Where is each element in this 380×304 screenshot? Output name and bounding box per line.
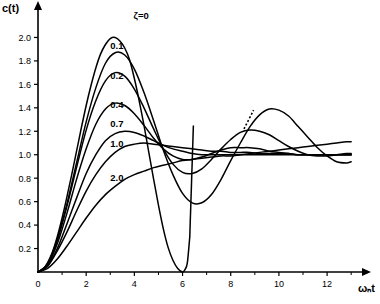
step-response-chart: 0246810120.20.40.60.81.01.21.41.61.82.0c… bbox=[0, 0, 380, 304]
annotation-02: 0.2 bbox=[110, 70, 123, 81]
y-tick-label: 1.2 bbox=[18, 127, 31, 137]
curve-zeta-0-tail bbox=[190, 125, 194, 236]
x-tick-label: 4 bbox=[132, 279, 137, 289]
x-tick-label: 0 bbox=[35, 279, 40, 289]
y-tick-label: 0.2 bbox=[18, 244, 31, 254]
x-tick-label: 6 bbox=[180, 279, 185, 289]
y-axis-label: c(t) bbox=[2, 2, 19, 14]
x-tick-label: 8 bbox=[228, 279, 233, 289]
y-tick-label: 2.0 bbox=[18, 33, 31, 43]
x-tick-label: 12 bbox=[322, 279, 332, 289]
pointer-dotted-line bbox=[244, 110, 254, 129]
curve-zeta-1 bbox=[38, 143, 351, 272]
annotation-07: 0.7 bbox=[110, 118, 123, 129]
y-axis-arrow bbox=[34, 1, 42, 10]
y-tick-label: 1.0 bbox=[18, 150, 31, 160]
chart-container: 0246810120.20.40.60.81.01.21.41.61.82.0c… bbox=[0, 0, 380, 304]
annotation-01: 0.1 bbox=[110, 40, 124, 51]
y-tick-label: 0.4 bbox=[18, 220, 31, 230]
x-tick-label: 2 bbox=[84, 279, 89, 289]
annotation-0: ζ=0 bbox=[134, 10, 149, 21]
y-tick-label: 0.6 bbox=[18, 197, 31, 207]
y-tick-label: 0.8 bbox=[18, 174, 31, 184]
curve-zeta-0.2 bbox=[38, 72, 351, 272]
annotation-10: 1.0 bbox=[110, 138, 123, 149]
annotation-20: 2.0 bbox=[110, 172, 123, 183]
y-tick-label: 1.8 bbox=[18, 56, 31, 66]
y-tick-label: 1.4 bbox=[18, 103, 31, 113]
curve-zeta-2 bbox=[38, 142, 351, 272]
y-tick-label: 1.6 bbox=[18, 80, 31, 90]
x-axis-arrow bbox=[362, 268, 371, 276]
curve-zeta-0.1 bbox=[38, 52, 351, 272]
x-axis-label: ωₙt bbox=[358, 282, 375, 294]
annotation-04: 0.4 bbox=[110, 99, 124, 110]
x-tick-label: 10 bbox=[274, 279, 284, 289]
